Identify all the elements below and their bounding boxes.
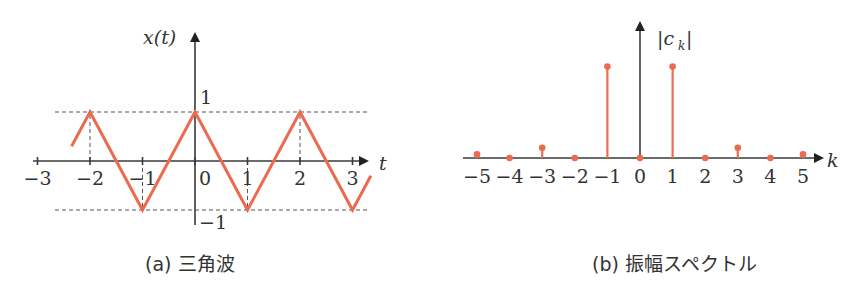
- tick-label: −2: [76, 167, 104, 189]
- amplitude-spectrum-chart: −5−4−3−2−1012345 k |c k | (b) 振幅スペクトル: [463, 23, 839, 275]
- triangle-wave-line: [72, 112, 371, 210]
- tick-label: 5: [797, 165, 809, 187]
- tick-label: 1: [241, 167, 253, 189]
- tick-label: −2: [561, 165, 589, 187]
- t-axis-label: t: [379, 152, 387, 174]
- stem-marker: [474, 151, 481, 158]
- tick-label: 1: [667, 165, 679, 187]
- tick-label: −4: [496, 165, 524, 187]
- stem-k2: [702, 155, 709, 162]
- stem-k5: [800, 151, 807, 158]
- stem-marker: [702, 155, 709, 162]
- stem-k-4: [506, 155, 513, 162]
- triangle-wave-chart: −3−2−10123 t x(t) 1 −1 (a) 三角波: [23, 26, 387, 275]
- y-tick-label-1: 1: [200, 86, 212, 108]
- tick-label: 2: [294, 167, 306, 189]
- tick-label: 4: [764, 165, 776, 187]
- figure: −3−2−10123 t x(t) 1 −1 (a) 三角波 −5−4−3−2−…: [0, 0, 854, 292]
- stem-k1: [669, 63, 676, 158]
- tick-label: 3: [732, 165, 744, 187]
- stem-marker: [637, 155, 644, 162]
- ck-axis-label: |c k |: [657, 27, 692, 53]
- k-axis-tick-labels: −5−4−3−2−1012345: [463, 165, 809, 187]
- ck-label-bar: |: [686, 27, 692, 50]
- tick-label: −3: [23, 167, 51, 189]
- tick-label: 3: [346, 167, 358, 189]
- stem-k4: [767, 155, 774, 162]
- tick-label: 2: [699, 165, 711, 187]
- tick-label: −3: [528, 165, 556, 187]
- stem-k-2: [572, 155, 579, 162]
- caption-b: (b) 振幅スペクトル: [592, 253, 757, 275]
- tick-label: 0: [199, 167, 211, 189]
- stem-marker: [767, 155, 774, 162]
- stem-marker: [604, 63, 611, 70]
- stem-marker: [735, 145, 742, 152]
- stem-k-1: [604, 63, 611, 158]
- stem-k3: [735, 145, 742, 158]
- k-axis-label: k: [827, 149, 839, 171]
- ck-label-main: |c: [657, 27, 674, 50]
- caption-a: (a) 三角波: [145, 253, 235, 275]
- y-tick-label-minus1: −1: [199, 211, 227, 233]
- stem-k0: [637, 155, 644, 162]
- tick-label: −1: [128, 167, 156, 189]
- stem-marker: [572, 155, 579, 162]
- stem-k-5: [474, 151, 481, 158]
- tick-label: 0: [634, 165, 646, 187]
- stem-marker: [800, 151, 807, 158]
- ck-label-subscript: k: [678, 39, 685, 53]
- stem-marker: [669, 63, 676, 70]
- stem-marker: [506, 155, 513, 162]
- x-axis-label: x(t): [143, 26, 176, 48]
- tick-label: −1: [593, 165, 621, 187]
- stem-marker: [539, 145, 546, 152]
- stem-k-3: [539, 145, 546, 158]
- tick-label: −5: [463, 165, 491, 187]
